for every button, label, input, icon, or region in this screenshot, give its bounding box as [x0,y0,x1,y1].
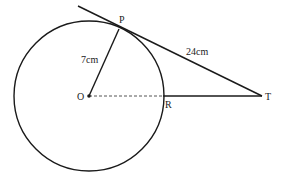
circle-tangent-diagram: P O R T 7cm 24cm [0,0,284,179]
label-t: T [265,91,271,102]
label-pt-length: 24cm [186,46,208,57]
center-point-o [87,94,91,98]
label-op-length: 7cm [81,54,98,65]
label-p: P [119,14,125,25]
diagram-canvas: P O R T 7cm 24cm [0,0,284,179]
label-o: O [77,91,84,102]
tangent-line-pt [78,6,262,96]
label-r: R [165,99,172,110]
